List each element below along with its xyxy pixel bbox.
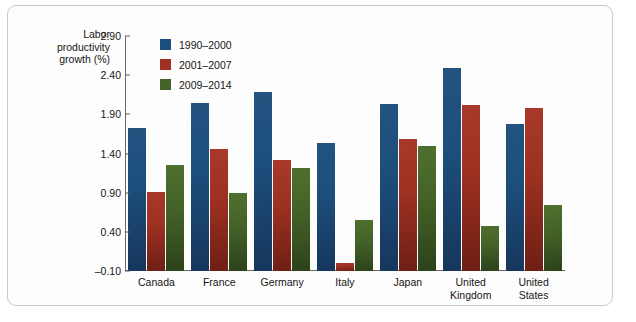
y-axis-tick-mark xyxy=(125,36,130,37)
bar[interactable] xyxy=(443,68,461,271)
bar[interactable] xyxy=(254,92,272,271)
y-axis-tick-label: 2.90 xyxy=(85,30,121,42)
y-axis-tick-label: 0.90 xyxy=(85,187,121,199)
bar[interactable] xyxy=(210,149,228,271)
bar[interactable] xyxy=(355,220,373,271)
y-axis-tick-mark xyxy=(125,153,130,154)
bar[interactable] xyxy=(481,226,499,271)
bars-layer xyxy=(125,36,565,271)
y-axis-tick-mark xyxy=(125,231,130,232)
bar-group xyxy=(251,36,314,271)
bar-group xyxy=(439,36,502,271)
bar-group xyxy=(502,36,565,271)
bar[interactable] xyxy=(525,108,543,271)
y-axis-tick-mark xyxy=(125,271,130,272)
bar-group xyxy=(314,36,377,271)
bar[interactable] xyxy=(191,103,209,271)
bar[interactable] xyxy=(273,160,291,271)
bar[interactable] xyxy=(462,105,480,271)
x-axis-category-label: Canada xyxy=(125,276,188,289)
x-axis-category-label: United Kingdom xyxy=(439,276,502,301)
y-axis-tick-label: 1.90 xyxy=(85,108,121,120)
y-axis-tick-mark xyxy=(125,192,130,193)
bar-group xyxy=(376,36,439,271)
x-axis-category-label: Germany xyxy=(251,276,314,289)
bar[interactable] xyxy=(399,139,417,271)
bar[interactable] xyxy=(147,192,165,271)
bar[interactable] xyxy=(336,263,354,271)
bar[interactable] xyxy=(317,143,335,271)
y-axis-tick-label: –0.10 xyxy=(85,265,121,277)
bar-group xyxy=(188,36,251,271)
bar-group xyxy=(125,36,188,271)
bar[interactable] xyxy=(166,165,184,271)
y-axis-tick-mark xyxy=(125,75,130,76)
x-axis-category-label: United States xyxy=(502,276,565,301)
bar[interactable] xyxy=(544,205,562,271)
y-axis-tick-labels: 2.902.401.901.400.900.40–0.10 xyxy=(85,0,121,322)
x-axis-category-label: Italy xyxy=(314,276,377,289)
x-axis-category-labels: CanadaFranceGermanyItalyJapanUnited King… xyxy=(125,276,565,318)
bar[interactable] xyxy=(380,104,398,271)
bar[interactable] xyxy=(292,168,310,271)
y-axis-tick-label: 2.40 xyxy=(85,69,121,81)
x-axis-category-label: Japan xyxy=(376,276,439,289)
bar[interactable] xyxy=(229,193,247,271)
bar[interactable] xyxy=(418,146,436,271)
bar[interactable] xyxy=(506,124,524,271)
y-axis-tick-label: 1.40 xyxy=(85,148,121,160)
y-axis-tick-label: 0.40 xyxy=(85,226,121,238)
x-axis-category-label: France xyxy=(188,276,251,289)
bar[interactable] xyxy=(128,128,146,271)
y-axis-tick-mark xyxy=(125,114,130,115)
